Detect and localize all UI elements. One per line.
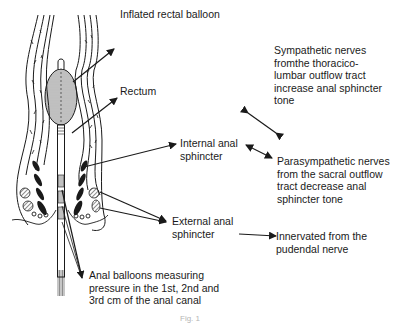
label-rectal-balloon: Inflated rectal balloon [120,8,220,21]
label-anal-balloons: Anal balloons measuring pressure in the … [89,269,219,307]
figure-caption: Fig. 1 [180,314,200,323]
label-sympathetic: Sympathetic nerves fromthe thoracico- lu… [274,44,382,107]
label-pudendal: Innervated from the pudendal nerve [276,230,367,255]
label-rectum: Rectum [120,85,156,98]
anal-balloon-1 [58,175,64,187]
label-external-sphincter: External anal sphincter [172,215,233,240]
pointer-arrows [62,49,276,278]
label-parasympathetic: Parasympathetic nerves from the sacral o… [277,155,390,205]
internal-sphincter-right [72,160,89,217]
probe [45,59,77,296]
arrow-parasympathetic-double [246,145,272,158]
arrow-pudendal [239,234,276,236]
internal-sphincter-left [31,160,49,217]
arrow-internal-sphincter [84,144,176,167]
label-internal-sphincter: Internal anal sphincter [180,137,238,162]
arrow-external-sphincter-2 [100,208,166,222]
arrow-external-sphincter-1 [100,192,166,221]
arrow-sympathetic-double [248,113,276,133]
